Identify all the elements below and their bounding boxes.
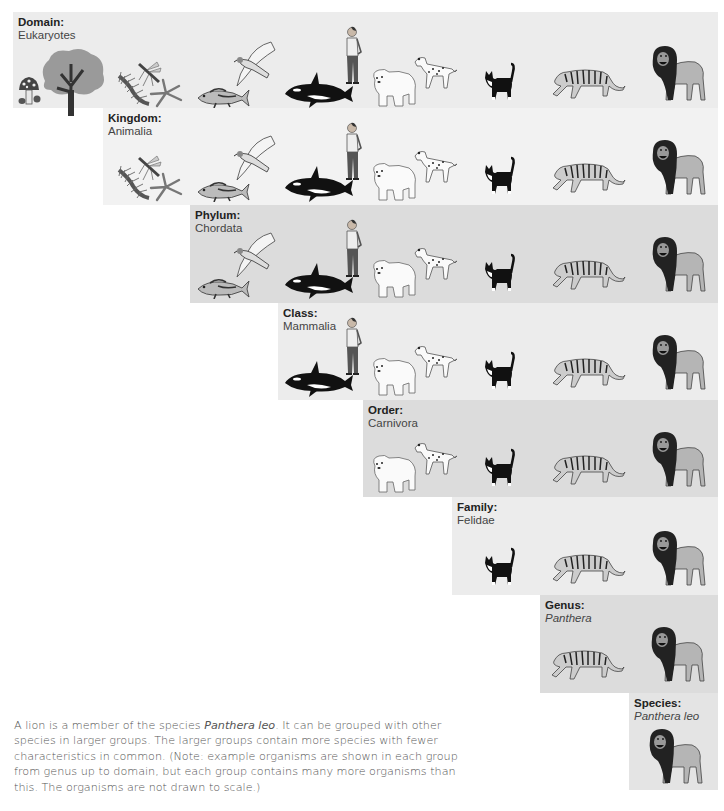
human-icon <box>343 219 363 279</box>
tiger-icon <box>551 158 627 194</box>
dalmatian-icon <box>413 345 457 381</box>
panel-order: Order: Carnivora <box>363 400 718 497</box>
dalmatian-icon <box>413 442 457 478</box>
panel-phylum: Phylum: Chordata <box>190 205 718 303</box>
panel-species: Species: Panthera leo <box>629 693 718 790</box>
panel-family: Family: Felidae <box>452 497 718 595</box>
rank-label: Species: <box>634 697 699 710</box>
lion-icon <box>649 529 709 589</box>
fish-icon <box>196 180 250 202</box>
tiger-icon <box>551 353 627 389</box>
fish-icon <box>196 277 250 299</box>
taxon-name: Carnivora <box>368 417 418 430</box>
polar-bear-icon <box>369 452 419 494</box>
tiger-icon <box>551 450 627 486</box>
rank-label: Domain: <box>18 16 76 29</box>
starfish-icon <box>149 78 183 108</box>
hawk-icon <box>225 134 281 182</box>
cat-icon <box>483 448 517 488</box>
lion-icon <box>649 333 709 393</box>
tiger-icon <box>551 549 627 585</box>
taxon-name: Panthera <box>545 612 592 625</box>
panel-genus: Genus: Panthera <box>540 595 718 693</box>
label-kingdom: Kingdom: Animalia <box>108 112 162 138</box>
polar-bear-icon <box>369 160 419 202</box>
human-icon <box>343 26 363 86</box>
rank-label: Phylum: <box>195 209 242 222</box>
label-domain: Domain: Eukaryotes <box>18 16 76 42</box>
caption-species-name: Panthera leo <box>204 719 275 732</box>
rank-label: Kingdom: <box>108 112 162 125</box>
starfish-icon <box>149 172 183 202</box>
rank-label: Class: <box>283 307 336 320</box>
cat-icon <box>483 547 517 587</box>
panel-class: Class: Mammalia <box>278 303 718 400</box>
tiger-icon <box>551 64 627 100</box>
panel-kingdom: Kingdom: Animalia <box>103 108 718 205</box>
human-icon <box>343 317 363 377</box>
taxon-name: Felidae <box>457 514 497 527</box>
rank-label: Family: <box>457 501 497 514</box>
polar-bear-icon <box>369 257 419 299</box>
label-genus: Genus: Panthera <box>545 599 592 625</box>
hawk-icon <box>225 40 281 88</box>
label-family: Family: Felidae <box>457 501 497 527</box>
taxon-name: Mammalia <box>283 320 336 333</box>
dalmatian-icon <box>413 56 457 92</box>
cat-icon <box>483 351 517 391</box>
caption-part-1: A lion is a member of the species <box>14 719 204 732</box>
polar-bear-icon <box>369 355 419 397</box>
rank-label: Genus: <box>545 599 592 612</box>
dalmatian-icon <box>413 247 457 283</box>
dalmatian-icon <box>413 150 457 186</box>
taxon-name: Panthera leo <box>634 710 699 723</box>
polar-bear-icon <box>369 66 419 108</box>
hawk-icon <box>225 231 281 279</box>
lion-icon <box>649 235 709 295</box>
taxon-name: Animalia <box>108 125 162 138</box>
human-icon <box>343 122 363 182</box>
lion-icon <box>646 727 706 787</box>
lion-icon <box>648 625 708 685</box>
tiger-icon <box>551 255 627 291</box>
lion-icon <box>649 138 709 198</box>
figure-caption: A lion is a member of the species Panthe… <box>14 718 464 795</box>
tiger-icon <box>550 645 626 681</box>
rank-label: Order: <box>368 404 418 417</box>
label-class: Class: Mammalia <box>283 307 336 333</box>
lion-icon <box>649 44 709 104</box>
fish-icon <box>196 86 250 108</box>
tree-icon <box>37 46 107 116</box>
cat-icon <box>483 156 517 196</box>
cat-icon <box>483 253 517 293</box>
cat-icon <box>483 62 517 102</box>
lion-icon <box>649 430 709 490</box>
label-order: Order: Carnivora <box>368 404 418 430</box>
label-species: Species: Panthera leo <box>634 697 699 723</box>
panel-domain: Domain: Eukaryotes <box>13 12 718 108</box>
taxon-name: Eukaryotes <box>18 29 76 42</box>
